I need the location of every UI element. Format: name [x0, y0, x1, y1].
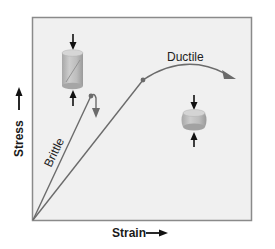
x-axis-label: Strain	[112, 226, 146, 240]
plot-area	[33, 18, 252, 221]
y-axis-label-group: Stress	[12, 87, 26, 157]
stress-strain-diagram: Ductile Brittle Stress Strain	[0, 0, 275, 249]
up-arrow-icon	[16, 87, 23, 96]
x-axis-label-group: Strain	[112, 226, 168, 240]
y-axis-label: Stress	[12, 120, 26, 157]
ductile-yield-point	[141, 78, 146, 83]
right-arrow-icon	[159, 230, 168, 237]
ductile-label: Ductile	[167, 50, 204, 64]
brittle-failure-point	[89, 94, 94, 99]
